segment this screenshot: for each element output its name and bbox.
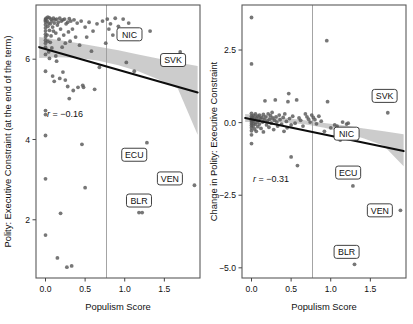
correlation-annotation: r = −0.31 — [253, 174, 289, 184]
data-point — [48, 28, 52, 32]
data-point — [74, 35, 78, 39]
data-point — [97, 65, 101, 69]
country-label-text: VEN — [371, 206, 389, 216]
data-point — [278, 118, 282, 122]
data-point — [293, 121, 297, 125]
data-point — [308, 120, 312, 124]
data-point — [288, 117, 292, 121]
country-label-blr: BLR — [334, 245, 359, 258]
data-point — [57, 37, 61, 41]
country-labels: SVKNICECUVENBLR — [334, 89, 397, 258]
data-point — [346, 121, 350, 125]
data-point — [54, 54, 58, 58]
data-point — [272, 128, 276, 132]
country-label-svk: SVK — [161, 54, 186, 67]
data-point — [284, 120, 288, 124]
country-label-svk: SVK — [372, 89, 397, 102]
y-tick-label: 6 — [25, 54, 30, 64]
data-point — [83, 186, 87, 190]
y-axis-label: Change in Polity: Executive Constraint — [208, 61, 219, 221]
data-point — [52, 21, 56, 25]
data-point — [65, 265, 69, 269]
data-point — [83, 25, 87, 29]
data-point — [104, 41, 108, 45]
y-tick-label: 2.5 — [224, 45, 236, 55]
data-point — [71, 27, 75, 31]
x-axis-label: Populism Score — [291, 301, 357, 312]
data-point — [281, 115, 285, 119]
x-axis-label: Populism Score — [85, 301, 151, 312]
data-point — [289, 155, 293, 159]
x-tick-label: 0.0 — [40, 284, 52, 294]
data-point — [44, 69, 48, 73]
data-point — [353, 262, 357, 266]
data-point — [250, 62, 254, 66]
data-point — [80, 142, 84, 146]
data-point — [51, 74, 55, 78]
data-point — [315, 122, 319, 126]
data-point — [277, 113, 281, 117]
data-point — [319, 119, 323, 123]
country-label-text: NIC — [339, 129, 355, 139]
data-point — [51, 25, 55, 29]
data-point — [85, 35, 89, 39]
data-point — [55, 256, 59, 260]
data-point — [313, 118, 317, 122]
data-point — [62, 33, 66, 37]
data-point — [326, 100, 330, 104]
data-point — [325, 39, 329, 43]
data-point — [72, 18, 76, 22]
data-point — [105, 17, 109, 21]
data-point — [44, 134, 48, 138]
data-point — [48, 56, 52, 60]
x-tick-label: 1.0 — [325, 284, 337, 294]
data-point — [261, 130, 265, 134]
x-tick-label: 0.5 — [79, 284, 91, 294]
y-tick-label: 4 — [25, 135, 30, 145]
data-point — [44, 233, 48, 237]
data-point — [341, 120, 345, 124]
data-point — [93, 87, 97, 91]
data-point — [63, 78, 67, 82]
data-point — [127, 21, 131, 25]
data-point — [250, 142, 254, 146]
data-point — [258, 122, 262, 126]
data-point — [254, 129, 258, 133]
data-point — [267, 125, 271, 129]
data-point — [286, 100, 290, 104]
data-point — [79, 19, 83, 23]
data-point — [52, 79, 56, 83]
data-point — [75, 21, 79, 25]
data-point — [291, 114, 295, 118]
country-label-text: BLR — [130, 196, 147, 206]
country-label-text: ECU — [339, 168, 358, 178]
data-point — [259, 127, 263, 131]
data-point — [107, 27, 111, 31]
country-label-ven: VEN — [367, 204, 392, 217]
data-point — [58, 77, 62, 81]
data-point — [44, 52, 48, 56]
data-point — [287, 92, 291, 96]
data-point — [54, 31, 58, 35]
y-tick-label: 0.0 — [224, 118, 236, 128]
data-point — [386, 111, 390, 115]
data-point — [61, 70, 65, 74]
data-point — [145, 141, 149, 145]
x-tick-label: 1.0 — [119, 284, 131, 294]
data-point — [87, 20, 91, 24]
data-point — [48, 40, 52, 44]
country-label-text: SVK — [376, 91, 394, 101]
data-point — [270, 111, 274, 115]
country-label-text: SVK — [164, 55, 182, 65]
data-point — [50, 46, 54, 50]
country-label-text: ECU — [125, 150, 144, 160]
data-point — [317, 114, 321, 118]
y-tick-label: −2.5 — [219, 190, 236, 200]
country-label-ecu: ECU — [336, 166, 361, 179]
data-point — [121, 17, 125, 21]
data-point — [273, 98, 277, 102]
data-point — [111, 33, 115, 37]
data-point — [250, 133, 254, 137]
data-point — [59, 27, 63, 31]
country-label-ecu: ECU — [122, 148, 147, 161]
